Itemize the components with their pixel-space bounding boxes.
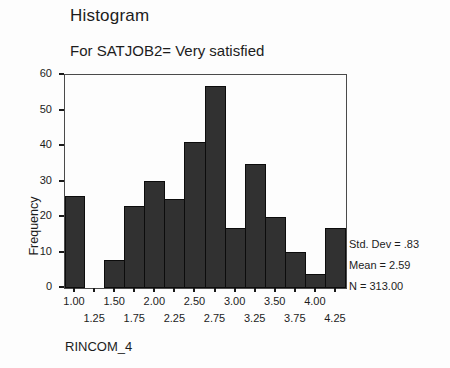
x-tick-label: 1.25 bbox=[77, 312, 111, 325]
stat-std-dev: Std. Dev = .83 bbox=[349, 234, 419, 255]
y-tick-label: 40 bbox=[26, 138, 52, 151]
y-tick-label: 60 bbox=[26, 67, 52, 80]
x-tick-mark bbox=[193, 288, 195, 292]
y-tick-mark bbox=[59, 180, 64, 182]
plot-area bbox=[64, 74, 347, 289]
x-tick-label: 3.25 bbox=[238, 312, 272, 325]
x-tick-mark bbox=[93, 288, 95, 292]
stat-mean: Mean = 2.59 bbox=[349, 255, 419, 276]
histogram-bar bbox=[285, 252, 306, 288]
y-tick-mark bbox=[59, 286, 64, 288]
x-tick-mark bbox=[294, 288, 296, 292]
histogram-bar bbox=[184, 142, 206, 288]
y-tick-label: 0 bbox=[26, 280, 52, 293]
y-tick-label: 50 bbox=[26, 103, 52, 116]
x-tick-mark bbox=[274, 288, 276, 292]
x-tick-mark bbox=[254, 288, 256, 292]
histogram-bar bbox=[225, 228, 246, 288]
histogram-bar bbox=[205, 86, 226, 288]
x-tick-label: 3.50 bbox=[258, 295, 292, 308]
y-tick-mark bbox=[59, 251, 64, 253]
y-tick-label: 20 bbox=[26, 209, 52, 222]
x-tick-mark bbox=[173, 288, 175, 292]
x-tick-label: 4.25 bbox=[318, 312, 352, 325]
x-tick-mark bbox=[314, 288, 316, 292]
x-tick-mark bbox=[334, 288, 336, 292]
y-tick-mark bbox=[59, 215, 64, 217]
y-tick-mark bbox=[59, 109, 64, 111]
histogram-bar bbox=[325, 228, 346, 288]
y-tick-label: 10 bbox=[26, 245, 52, 258]
stat-n: N = 313.00 bbox=[349, 276, 419, 297]
histogram-bar bbox=[305, 274, 326, 288]
y-tick-mark bbox=[59, 144, 64, 146]
x-tick-label: 3.00 bbox=[218, 295, 252, 308]
stats-annotation: Std. Dev = .83 Mean = 2.59 N = 313.00 bbox=[349, 234, 419, 297]
x-tick-mark bbox=[73, 288, 75, 292]
x-tick-mark bbox=[133, 288, 135, 292]
chart-subtitle: For SATJOB2= Very satisfied bbox=[70, 42, 264, 59]
histogram-bar bbox=[144, 181, 165, 288]
x-tick-mark bbox=[234, 288, 236, 292]
x-tick-label: 1.75 bbox=[117, 312, 151, 325]
x-tick-label: 3.75 bbox=[278, 312, 312, 325]
y-tick-label: 30 bbox=[26, 174, 52, 187]
x-tick-mark bbox=[113, 288, 115, 292]
histogram-bar bbox=[65, 196, 85, 288]
y-tick-mark bbox=[59, 73, 64, 75]
x-tick-label: 2.25 bbox=[157, 312, 191, 325]
histogram-bar bbox=[164, 199, 185, 288]
chart-title: Histogram bbox=[70, 6, 149, 26]
x-tick-mark bbox=[214, 288, 216, 292]
x-tick-label: 2.00 bbox=[137, 295, 171, 308]
x-variable-label: RINCOM_4 bbox=[65, 339, 132, 354]
histogram-bar bbox=[124, 206, 145, 288]
histogram-bar bbox=[104, 260, 125, 288]
x-tick-mark bbox=[153, 288, 155, 292]
x-tick-label: 1.50 bbox=[97, 295, 131, 308]
x-tick-label: 4.00 bbox=[298, 295, 332, 308]
x-tick-label: 2.75 bbox=[198, 312, 232, 325]
histogram-bar bbox=[245, 164, 266, 288]
histogram-chart: Histogram For SATJOB2= Very satisfied Fr… bbox=[0, 0, 450, 368]
x-tick-label: 2.50 bbox=[177, 295, 211, 308]
histogram-bar bbox=[265, 217, 286, 288]
x-tick-label: 1.00 bbox=[57, 295, 91, 308]
